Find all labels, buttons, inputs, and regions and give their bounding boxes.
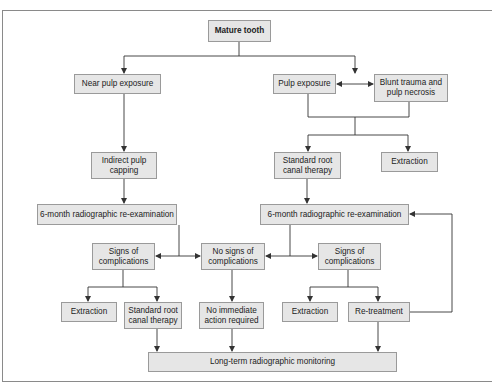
node-blunt-trauma: Blunt trauma and pulp necrosis <box>374 74 448 102</box>
node-no-signs: No signs of complications <box>201 243 265 270</box>
node-extraction-right: Extraction <box>282 302 338 322</box>
node-extraction-left: Extraction <box>61 302 117 322</box>
node-retreatment: Re-treatment <box>348 302 410 322</box>
node-extraction-top: Extraction <box>381 152 438 172</box>
node-signs-right: Signs of complications <box>318 243 381 270</box>
node-indirect-pulp-capping: Indirect pulp capping <box>91 152 157 179</box>
node-near-pulp-exposure: Near pulp exposure <box>74 74 161 94</box>
node-pulp-exposure: Pulp exposure <box>273 74 336 94</box>
node-signs-left: Signs of complications <box>92 243 155 270</box>
node-reexam-left: 6-month radiographic re-examination <box>37 204 177 225</box>
node-mature-tooth: Mature tooth <box>208 20 271 42</box>
node-standard-root-canal-bottom: Standard root canal therapy <box>124 302 182 329</box>
node-reexam-right: 6-month radiographic re-examination <box>260 204 409 225</box>
node-standard-root-canal-top: Standard root canal therapy <box>274 152 341 179</box>
node-no-action: No immediate action required <box>199 302 264 329</box>
node-long-term-monitoring: Long-term radiographic monitoring <box>148 352 397 372</box>
